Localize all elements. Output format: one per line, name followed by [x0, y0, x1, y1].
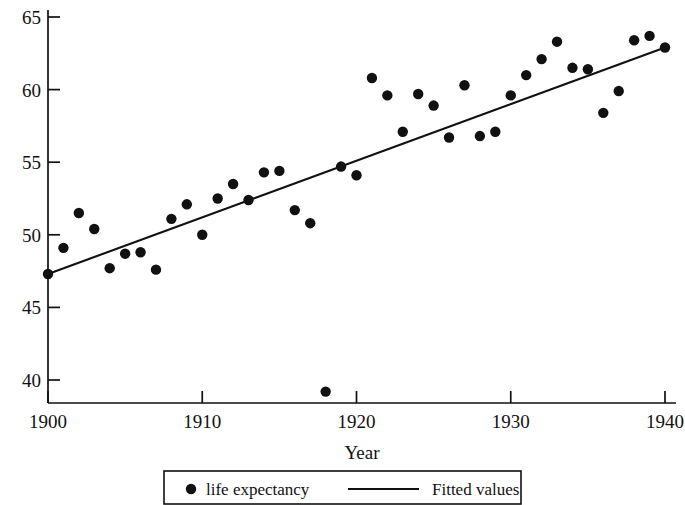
- legend-dot-icon: [186, 484, 196, 494]
- data-points: [43, 31, 670, 397]
- data-point: [212, 193, 222, 203]
- data-point: [382, 90, 392, 100]
- data-point: [398, 127, 408, 137]
- data-point: [74, 208, 84, 218]
- data-point: [521, 70, 531, 80]
- plot-area: 404550556065 19001910192019301940: [22, 7, 684, 432]
- x-tick-label: 1910: [183, 411, 221, 432]
- data-point: [259, 167, 269, 177]
- data-point: [644, 31, 654, 41]
- data-point: [598, 108, 608, 118]
- y-axis-ticks: [48, 17, 60, 380]
- y-tick-label: 55: [22, 152, 41, 173]
- x-tick-label: 1940: [646, 411, 684, 432]
- data-point: [182, 199, 192, 209]
- data-point: [475, 131, 485, 141]
- fitted-line-path: [48, 47, 665, 274]
- legend-label-fitted-values: Fitted values: [432, 480, 519, 499]
- data-point: [290, 205, 300, 215]
- data-point: [105, 263, 115, 273]
- scatter-chart: 404550556065 19001910192019301940 Year l…: [0, 0, 685, 505]
- x-tick-label: 1900: [29, 411, 67, 432]
- y-tick-label: 60: [22, 80, 41, 101]
- x-axis-title: Year: [344, 442, 380, 463]
- data-point: [43, 269, 53, 279]
- data-point: [490, 127, 500, 137]
- data-point: [166, 214, 176, 224]
- y-tick-label: 45: [22, 297, 41, 318]
- data-point: [660, 42, 670, 52]
- x-axis-ticks: [48, 391, 665, 403]
- legend-label-life-expectancy: life expectancy: [206, 480, 310, 499]
- legend: life expectancy Fitted values: [164, 471, 521, 504]
- y-tick-label: 65: [22, 7, 41, 28]
- data-point: [274, 166, 284, 176]
- y-tick-label: 50: [22, 225, 41, 246]
- data-point: [58, 243, 68, 253]
- data-point: [567, 63, 577, 73]
- y-tick-label: 40: [22, 370, 41, 391]
- data-point: [583, 64, 593, 74]
- fitted-values-line: [48, 47, 665, 274]
- data-point: [151, 264, 161, 274]
- data-point: [629, 35, 639, 45]
- data-point: [444, 132, 454, 142]
- y-axis-tick-labels: 404550556065: [22, 7, 41, 391]
- data-point: [536, 54, 546, 64]
- x-axis-tick-labels: 19001910192019301940: [29, 411, 684, 432]
- data-point: [552, 36, 562, 46]
- chart-canvas: 404550556065 19001910192019301940 Year l…: [0, 0, 685, 505]
- data-point: [336, 161, 346, 171]
- data-point: [506, 90, 516, 100]
- data-point: [89, 224, 99, 234]
- x-tick-label: 1920: [338, 411, 376, 432]
- data-point: [614, 86, 624, 96]
- data-point: [413, 89, 423, 99]
- data-point: [459, 80, 469, 90]
- data-point: [243, 195, 253, 205]
- data-point: [120, 248, 130, 258]
- data-point: [305, 218, 315, 228]
- data-point: [197, 230, 207, 240]
- data-point: [320, 386, 330, 396]
- x-tick-label: 1930: [492, 411, 530, 432]
- data-point: [228, 179, 238, 189]
- data-point: [367, 73, 377, 83]
- data-point: [428, 100, 438, 110]
- data-point: [135, 247, 145, 257]
- data-point: [351, 170, 361, 180]
